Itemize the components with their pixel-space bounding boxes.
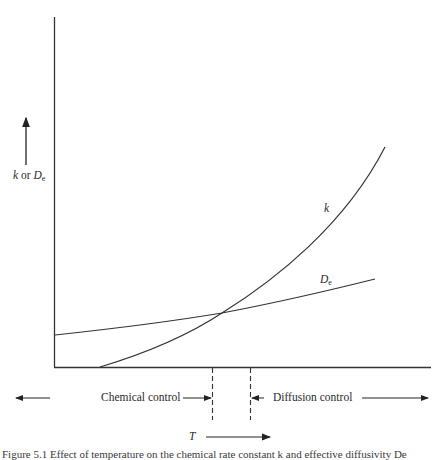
diffusion-control-label: Diffusion control bbox=[273, 392, 352, 404]
figure-caption: Figure 5.1 Effect of temperature on the … bbox=[2, 448, 407, 460]
y-label-de-sub: e bbox=[42, 174, 46, 183]
de-curve bbox=[55, 279, 375, 335]
y-axis-label: k or De bbox=[13, 170, 45, 183]
x-axis-label: T bbox=[189, 431, 195, 443]
de-label-sub: e bbox=[328, 278, 332, 287]
k-curve-label: k bbox=[324, 203, 329, 215]
y-label-or: or bbox=[21, 169, 31, 181]
chemical-control-label: Chemical control bbox=[101, 392, 181, 404]
y-label-de: D bbox=[33, 169, 41, 181]
k-curve bbox=[100, 147, 385, 367]
de-curve-label: De bbox=[320, 274, 332, 287]
y-label-k: k bbox=[13, 169, 18, 181]
